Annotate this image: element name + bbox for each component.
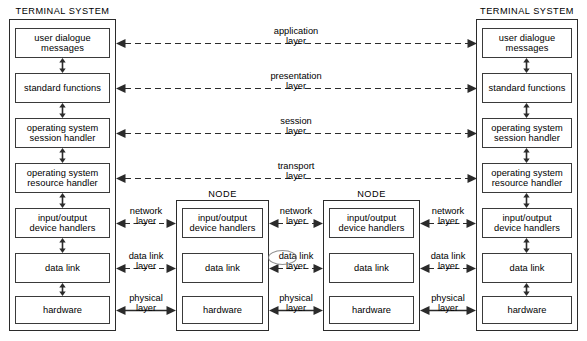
terminal-right-box-hardware: hardware — [482, 296, 572, 324]
vconn-right-6 — [520, 283, 533, 296]
label-line-1: physical — [418, 293, 478, 303]
vconn-left-3 — [56, 148, 69, 163]
terminal-left-box-data-link: data link — [15, 253, 110, 283]
node-right-box-input-output-device-handlers: input/outputdevice handlers — [329, 208, 414, 238]
terminal-right-box-input-output-device-handlers: input/outputdevice handlers — [482, 208, 572, 238]
box-line-1: user dialogue — [34, 33, 90, 43]
label-line-1: session — [236, 116, 356, 126]
vconn-right-1 — [520, 58, 533, 73]
label-line-1: data link — [416, 251, 480, 261]
box-line-1: data link — [509, 263, 544, 273]
box-line-2: session handler — [491, 133, 563, 143]
label-line-1: network — [116, 206, 176, 216]
box-line-1: data link — [205, 263, 240, 273]
node-left-box-data-link: data link — [182, 253, 263, 283]
connector-physical-layer-hop3 — [420, 303, 476, 318]
vconn-right-2 — [520, 103, 533, 118]
box-line-1: input/output — [30, 213, 96, 223]
connector-transport-layer — [116, 171, 477, 186]
vconn-left-6 — [56, 283, 69, 296]
label-line-1: application — [236, 26, 356, 36]
box-line-1: standard functions — [489, 83, 566, 93]
label-line-1: physical — [116, 293, 176, 303]
node-right-box-hardware: hardware — [329, 296, 414, 324]
connector-presentation-layer — [116, 81, 477, 96]
box-line-1: user dialogue — [499, 33, 555, 43]
diagram-canvas: TERMINAL SYSTEM NODE NODE TERMINAL SYSTE… — [0, 0, 587, 341]
box-line-1: input/output — [339, 213, 405, 223]
box-line-1: hardware — [507, 305, 546, 315]
box-line-1: hardware — [352, 305, 391, 315]
box-line-2: device handlers — [30, 223, 96, 233]
box-line-1: input/output — [190, 213, 256, 223]
connector-application-layer — [116, 36, 477, 51]
connector-network-layer-hop2 — [269, 216, 323, 231]
box-line-1: hardware — [43, 305, 82, 315]
box-line-1: standard functions — [24, 83, 101, 93]
label-line-1: transport — [236, 161, 356, 171]
box-line-1: operating system — [27, 168, 99, 178]
terminal-right-box-operating-system-resource-handler: operating systemresource handler — [482, 163, 572, 193]
terminal-left-box-operating-system-resource-handler: operating systemresource handler — [15, 163, 110, 193]
box-line-1: data link — [45, 263, 80, 273]
vconn-left-2 — [56, 103, 69, 118]
terminal-left-box-input-output-device-handlers: input/outputdevice handlers — [15, 208, 110, 238]
caption-terminal-system-right: TERMINAL SYSTEM — [476, 6, 578, 16]
vconn-left-4 — [56, 193, 69, 208]
box-line-2: device handlers — [190, 223, 256, 233]
box-line-1: data link — [354, 263, 389, 273]
box-line-1: operating system — [491, 123, 563, 133]
node-left-box-hardware: hardware — [182, 296, 263, 324]
node-left-box-input-output-device-handlers: input/outputdevice handlers — [182, 208, 263, 238]
vconn-left-5 — [56, 238, 69, 253]
caption-node-right: NODE — [323, 189, 420, 199]
scan-artifact-ring — [268, 250, 297, 265]
caption-node-left: NODE — [176, 189, 269, 199]
connector-data-link-layer-hop1 — [116, 261, 176, 276]
terminal-right-box-standard-functions: standard functions — [482, 73, 572, 103]
terminal-left-box-hardware: hardware — [15, 296, 110, 324]
box-line-2: session handler — [27, 133, 99, 143]
box-line-2: device handlers — [494, 223, 560, 233]
label-line-1: network — [418, 206, 478, 216]
connector-session-layer — [116, 126, 477, 141]
box-line-1: input/output — [494, 213, 560, 223]
terminal-left-box-standard-functions: standard functions — [15, 73, 110, 103]
connector-network-layer-hop3 — [420, 216, 476, 231]
vconn-right-3 — [520, 148, 533, 163]
box-line-2: messages — [499, 43, 555, 53]
vconn-right-4 — [520, 193, 533, 208]
node-right-box-data-link: data link — [329, 253, 414, 283]
box-line-1: operating system — [27, 123, 99, 133]
terminal-left-box-operating-system-session-handler: operating systemsession handler — [15, 118, 110, 148]
connector-physical-layer-hop1 — [116, 303, 176, 318]
terminal-left-box-user-dialogue-messages: user dialoguemessages — [15, 28, 110, 58]
box-line-2: device handlers — [339, 223, 405, 233]
connector-network-layer-hop1 — [116, 216, 176, 231]
connector-physical-layer-hop2 — [269, 303, 323, 318]
label-line-1: presentation — [236, 71, 356, 81]
terminal-right-box-data-link: data link — [482, 253, 572, 283]
box-line-2: resource handler — [27, 178, 99, 188]
box-line-1: operating system — [491, 168, 563, 178]
vconn-left-1 — [56, 58, 69, 73]
box-line-2: messages — [34, 43, 90, 53]
vconn-right-5 — [520, 238, 533, 253]
box-line-2: resource handler — [491, 178, 563, 188]
label-line-1: data link — [114, 251, 178, 261]
box-line-1: hardware — [203, 305, 242, 315]
terminal-right-box-user-dialogue-messages: user dialoguemessages — [482, 28, 572, 58]
label-line-1: physical — [266, 293, 326, 303]
terminal-right-box-operating-system-session-handler: operating systemsession handler — [482, 118, 572, 148]
label-line-1: network — [266, 206, 326, 216]
caption-terminal-system-left: TERMINAL SYSTEM — [9, 6, 116, 16]
connector-data-link-layer-hop3 — [420, 261, 476, 276]
